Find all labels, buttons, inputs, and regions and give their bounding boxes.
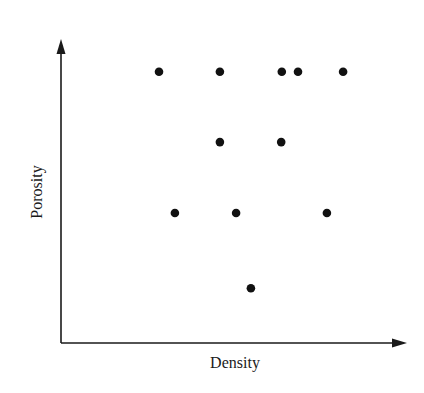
- scatter-plot: [0, 0, 424, 393]
- x-axis: [61, 339, 407, 348]
- data-point: [171, 209, 180, 218]
- y-axis-label: Porosity: [28, 165, 46, 218]
- y-axis-arrow-icon: [57, 39, 66, 54]
- y-axis: [57, 39, 66, 343]
- data-point: [277, 138, 286, 147]
- data-point: [232, 209, 241, 218]
- x-axis-label: Density: [0, 354, 424, 372]
- data-point: [339, 68, 348, 77]
- data-points: [155, 68, 348, 293]
- data-point: [294, 68, 303, 77]
- data-point: [216, 138, 225, 147]
- data-point: [278, 68, 287, 77]
- data-point: [155, 68, 164, 77]
- data-point: [216, 68, 225, 77]
- x-axis-arrow-icon: [392, 339, 407, 348]
- data-point: [247, 284, 256, 293]
- data-point: [323, 209, 332, 218]
